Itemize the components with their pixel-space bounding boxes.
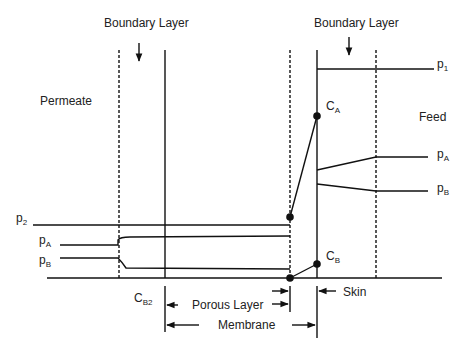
pB-right-label: pB xyxy=(437,182,449,197)
p1-label: p1 xyxy=(437,58,448,73)
CB2-label: CB2 xyxy=(134,292,152,307)
pA-right-label: pA xyxy=(437,148,449,163)
CA-point xyxy=(313,112,321,120)
pB-feed-line xyxy=(317,184,428,191)
point xyxy=(286,274,294,282)
point xyxy=(286,213,294,221)
CA-label: CA xyxy=(326,100,340,115)
porous-layer-label: Porous Layer xyxy=(192,299,263,311)
CA-gradient xyxy=(290,116,317,217)
feed-label: Feed xyxy=(419,111,446,123)
CB-gradient xyxy=(290,264,317,278)
p2-label: p2 xyxy=(16,212,27,227)
boundary-layer-left-label: Boundary Layer xyxy=(104,17,189,29)
pA-feed-line xyxy=(317,157,428,170)
pA-left-label: pA xyxy=(39,234,51,249)
permeate-label: Permeate xyxy=(40,95,92,107)
boundary-layer-right-label: Boundary Layer xyxy=(314,17,399,29)
pB-left-label: pB xyxy=(39,254,51,269)
CB-point xyxy=(313,260,321,268)
membrane-label: Membrane xyxy=(218,319,275,331)
pB-permeate-line xyxy=(60,258,290,269)
skin-label: Skin xyxy=(343,286,366,298)
pA-permeate-line xyxy=(60,236,290,245)
CB-label: CB xyxy=(326,250,340,265)
